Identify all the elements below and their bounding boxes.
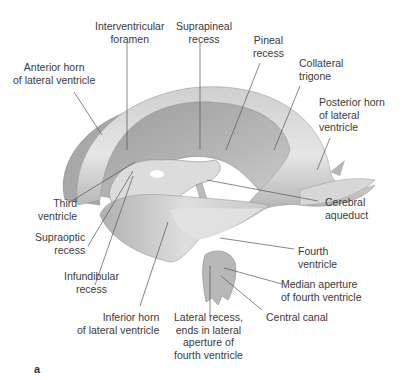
label-central-canal: Central canal — [266, 311, 328, 324]
panel-label: a — [34, 363, 40, 375]
label-third-ventricle: Third ventricle — [38, 197, 77, 222]
label-cerebral-aqueduct: Cerebral aqueduct — [325, 196, 368, 221]
label-infundibular-recess: Infundibular recess — [64, 270, 119, 295]
label-lateral-recess: Lateral recess, ends in lateral aperture… — [174, 311, 243, 361]
label-pineal-recess: Pineal recess — [253, 34, 284, 59]
label-supraoptic-recess: Supraoptic recess — [35, 231, 85, 256]
label-median-aperture: Median aperture of fourth ventricle — [281, 278, 362, 303]
label-collateral-trigone: Collateral trigone — [299, 57, 343, 82]
label-suprapineal-recess: Suprapineal recess — [176, 20, 232, 45]
label-posterior-horn: Posterior horn of lateral ventricle — [319, 96, 385, 134]
label-anterior-horn: Anterior horn of lateral ventricle — [13, 61, 95, 86]
label-fourth-ventricle: Fourth ventricle — [298, 245, 337, 270]
label-interventricular-foramen: Interventricular foramen — [95, 20, 164, 45]
ventricular-system-figure: Interventricular foramen Suprapineal rec… — [0, 0, 403, 380]
label-inferior-horn: Inferior horn of lateral ventricle — [77, 311, 159, 336]
